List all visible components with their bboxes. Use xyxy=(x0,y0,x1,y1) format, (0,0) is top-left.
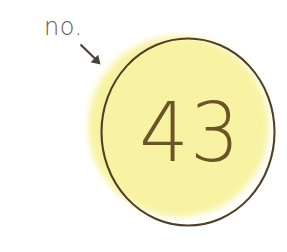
arrow-down-right-icon xyxy=(74,38,110,74)
badge-value: 43 xyxy=(139,91,240,174)
badge-circle: 43 xyxy=(100,37,276,227)
caption-label: no. xyxy=(44,15,83,39)
figure-canvas: 43 no. xyxy=(0,0,287,252)
